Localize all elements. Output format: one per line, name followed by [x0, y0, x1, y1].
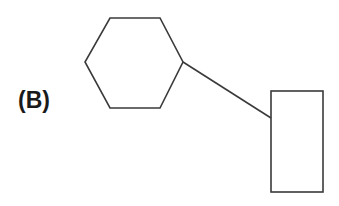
hexagon-shape: [85, 18, 183, 108]
rectangle-shape: [271, 91, 323, 192]
figure-panel: (B): [0, 0, 339, 206]
connecting-line: [183, 62, 271, 118]
figure-diagram: [0, 0, 339, 206]
